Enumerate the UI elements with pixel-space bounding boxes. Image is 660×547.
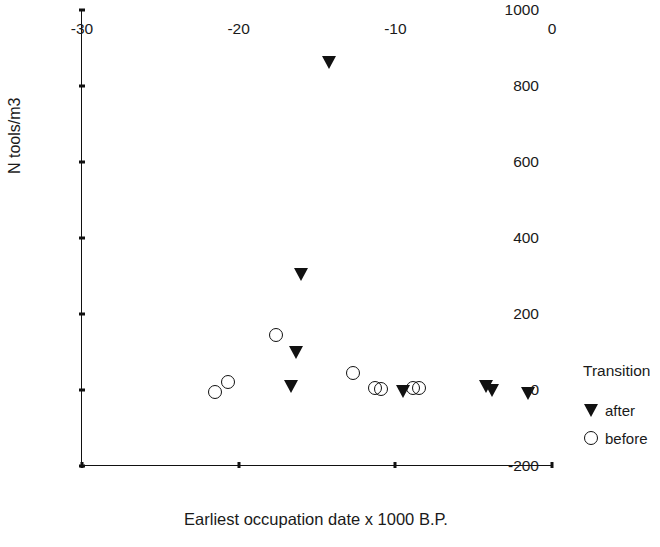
open-circle-icon [208, 385, 222, 399]
legend-item-before-label: before [605, 430, 648, 447]
y-tick-label: 600 [513, 153, 539, 171]
y-tick-label: 400 [513, 229, 539, 247]
open-circle-icon [412, 381, 426, 395]
y-tick-label: 1000 [505, 1, 539, 19]
filled-down-triangle-icon [322, 56, 336, 69]
x-tick-label: -20 [227, 20, 249, 38]
y-tick-label: 0 [530, 381, 539, 399]
y-tick-label: 800 [513, 77, 539, 95]
x-tick-mark [551, 462, 554, 468]
scatter-plot-figure: N tools/m3 -20002004006008001000 -30-20-… [0, 0, 660, 547]
y-tick-mark [79, 9, 85, 12]
filled-down-triangle-icon [284, 380, 298, 393]
open-circle-icon [374, 382, 388, 396]
x-tick-label: -10 [384, 20, 406, 38]
x-tick-label: 0 [548, 20, 557, 38]
y-tick-label: 200 [513, 305, 539, 323]
open-circle-icon [583, 429, 605, 447]
y-tick-mark [79, 85, 85, 88]
filled-down-triangle-icon [485, 384, 499, 397]
filled-down-triangle-icon [289, 346, 303, 359]
y-tick-mark [79, 161, 85, 164]
y-tick-mark [79, 237, 85, 240]
x-axis-title: Earliest occupation date x 1000 B.P. [81, 510, 551, 529]
y-tick-mark [79, 313, 85, 316]
legend-item-before[interactable]: before [583, 424, 660, 452]
y-axis-title: N tools/m3 [2, 152, 28, 170]
filled-down-triangle-icon [294, 268, 308, 281]
plot-canvas [82, 10, 551, 465]
y-tick-mark [79, 389, 85, 392]
open-circle-icon [221, 375, 235, 389]
legend-item-after[interactable]: after [583, 396, 660, 424]
filled-down-triangle-icon [583, 401, 605, 419]
open-circle-icon [269, 328, 283, 342]
open-circle-icon [346, 366, 360, 380]
x-tick-mark [81, 462, 84, 468]
x-tick-label: -30 [71, 20, 93, 38]
x-tick-mark [237, 462, 240, 468]
legend: Transition after before [583, 362, 660, 452]
legend-title: Transition [583, 362, 660, 380]
x-tick-mark [394, 462, 397, 468]
y-axis-title-text: N tools/m3 [6, 148, 24, 174]
legend-item-after-label: after [605, 402, 635, 419]
plot-area: -20002004006008001000 -30-20-100 [81, 10, 551, 466]
y-tick-label: -200 [508, 457, 539, 475]
